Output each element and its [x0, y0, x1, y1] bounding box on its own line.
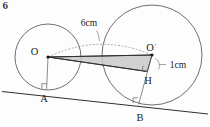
label-point-Oprime: O — [146, 42, 154, 53]
figure-number: 6 — [3, 0, 9, 11]
point-dot-O — [46, 55, 49, 58]
leader-arc-1cm — [156, 59, 160, 70]
leader-line-6cm — [97, 31, 100, 42]
label-point-H: H — [144, 75, 152, 86]
label-point-Oprime-prime: ′ — [155, 42, 157, 50]
geometry-figure-container: O O ′ A B H 6cm 1cm 6 — [0, 0, 210, 127]
radius-O-to-A — [47, 57, 48, 89]
right-angle-marker-A — [42, 84, 47, 89]
label-point-O: O — [31, 46, 39, 57]
point-dot-Oprime — [150, 53, 153, 56]
geometry-figure-svg: O O ′ A B H 6cm 1cm 6 — [0, 0, 210, 127]
label-dimension-6cm: 6cm — [81, 18, 98, 28]
label-point-A: A — [40, 93, 48, 104]
shaded-region — [48, 55, 152, 72]
label-point-B: B — [136, 112, 143, 123]
label-dimension-1cm: 1cm — [170, 60, 187, 70]
tangent-line — [2, 92, 208, 115]
